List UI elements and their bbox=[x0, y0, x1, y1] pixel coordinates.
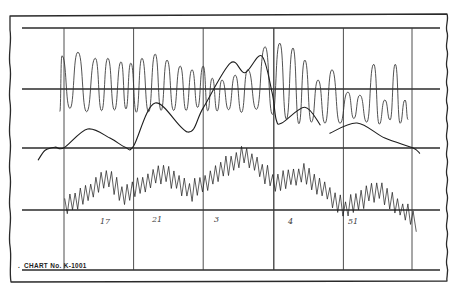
chart-title: CHART No. K-1001 bbox=[24, 262, 87, 269]
marker-label: 4 bbox=[287, 217, 293, 226]
marker-label: 3 bbox=[214, 215, 219, 224]
chart-recording: 17 21 3 4 51 . CHART No. K-1001 bbox=[0, 0, 461, 289]
traces bbox=[38, 43, 419, 232]
marker-label: 21 bbox=[151, 215, 162, 224]
lower-zigzag-trace bbox=[65, 146, 417, 232]
marker-label: 51 bbox=[348, 217, 358, 226]
time-markers: 17 21 3 4 51 bbox=[100, 215, 358, 226]
upper-oscillating-trace bbox=[60, 43, 408, 124]
marker-label: 17 bbox=[100, 217, 111, 226]
grid bbox=[22, 28, 440, 270]
chart-title-prefix: . bbox=[18, 262, 20, 269]
middle-smooth-trace bbox=[38, 55, 419, 159]
